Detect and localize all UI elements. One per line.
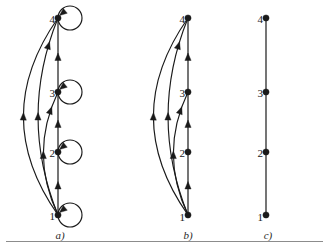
self-loop-arrow-a-1 — [60, 205, 68, 212]
spine-arrow-a-2-3 — [55, 120, 61, 128]
node-dot-b-2[interactable] — [185, 149, 191, 155]
arc-arrow2-a-1-to-4-1 — [44, 42, 50, 50]
node-dot-b-3[interactable] — [185, 89, 191, 95]
panel-caption-a: a) — [50, 229, 70, 241]
node-dot-c-4[interactable] — [263, 15, 269, 21]
node-label-a-3: 3 — [41, 87, 55, 99]
self-loop-arrow-a-4 — [60, 8, 68, 15]
arc-arrow2-a-1-to-3-2 — [46, 107, 52, 115]
node-dot-a-1[interactable] — [55, 212, 61, 218]
node-dot-c-2[interactable] — [263, 149, 269, 155]
arc-arrow-a-1-to-4-0 — [20, 113, 26, 121]
figure-root: 1234a)1234b)1234c) — [0, 0, 329, 248]
spine-arrow-b-1-2 — [185, 182, 191, 190]
self-loop-arrow-a-3 — [60, 82, 68, 89]
node-label-c-3: 3 — [249, 87, 263, 99]
spine-arrow-a-1-2 — [55, 182, 61, 190]
spine-arrow-b-3-4 — [185, 53, 191, 61]
node-dot-a-3[interactable] — [55, 89, 61, 95]
arc-a-1-to-4-0 — [23, 18, 58, 215]
spine-arrow-a-3-4 — [55, 53, 61, 61]
arc-arrow2-b-1-to-4-1 — [174, 42, 180, 50]
node-label-b-2: 2 — [171, 147, 185, 159]
node-dot-a-2[interactable] — [55, 149, 61, 155]
bottom-divider-rule — [6, 241, 323, 242]
arc-arrow-b-1-to-4-0 — [150, 113, 156, 121]
self-loop-arrow-a-2 — [60, 142, 68, 149]
node-label-b-1: 1 — [171, 211, 185, 223]
node-dot-c-1[interactable] — [263, 212, 269, 218]
self-loop-a-4 — [58, 6, 82, 30]
arc-b-1-to-4-0 — [153, 18, 188, 215]
arc-arrow-a-1-to-4-1 — [35, 113, 41, 121]
spine-arrow-b-2-3 — [185, 120, 191, 128]
self-loop-a-1 — [58, 203, 82, 227]
node-dot-b-4[interactable] — [185, 15, 191, 21]
node-label-b-4: 4 — [171, 13, 185, 25]
self-loop-a-2 — [58, 140, 82, 164]
node-dot-b-1[interactable] — [185, 212, 191, 218]
arc-arrow2-b-1-to-3-2 — [176, 107, 182, 115]
panel-caption-c: c) — [258, 229, 278, 241]
node-label-b-3: 3 — [171, 87, 185, 99]
panel-c — [263, 15, 269, 218]
node-label-c-2: 2 — [249, 147, 263, 159]
node-dot-a-4[interactable] — [55, 15, 61, 21]
panel-b — [150, 15, 191, 218]
node-label-a-4: 4 — [41, 13, 55, 25]
panel-caption-b: b) — [178, 229, 198, 241]
self-loop-a-3 — [58, 80, 82, 104]
node-label-a-1: 1 — [41, 210, 55, 222]
arc-arrow-b-1-to-4-1 — [165, 113, 171, 121]
panel-a — [20, 6, 82, 227]
node-label-c-1: 1 — [249, 211, 263, 223]
node-label-c-4: 4 — [249, 13, 263, 25]
node-label-a-2: 2 — [41, 147, 55, 159]
node-dot-c-3[interactable] — [263, 89, 269, 95]
